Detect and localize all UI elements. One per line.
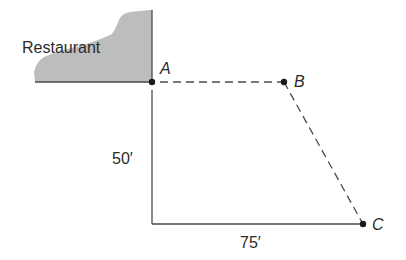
point-c-dot — [360, 221, 366, 227]
dashed-path-b-c — [284, 82, 363, 224]
point-b-dot — [281, 79, 287, 85]
site-plan-diagram: Restaurant A B C 50′ 75′ — [0, 0, 406, 260]
point-c-label: C — [372, 216, 384, 233]
restaurant-label: Restaurant — [22, 39, 101, 56]
point-a-dot — [149, 79, 155, 85]
vertical-measurement-label: 50′ — [112, 150, 133, 167]
point-a-label: A — [159, 60, 171, 77]
restaurant-building: Restaurant — [22, 10, 152, 82]
horizontal-measurement-label: 75′ — [240, 234, 261, 251]
point-b-label: B — [294, 73, 305, 90]
diagram-canvas: Restaurant A B C 50′ 75′ — [0, 0, 406, 260]
